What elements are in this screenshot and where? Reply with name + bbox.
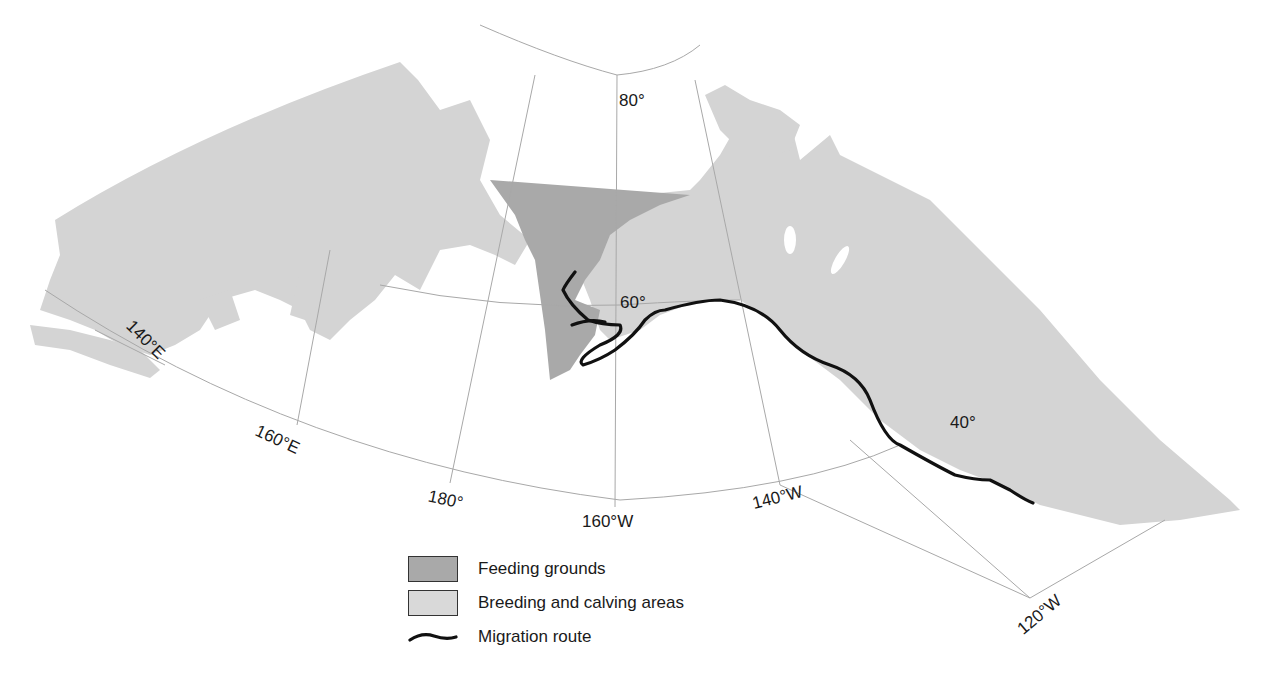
- land-north-america: [560, 110, 1240, 525]
- lake: [784, 226, 796, 254]
- legend-item-route: Migration route: [408, 624, 684, 650]
- longitude-label-160w: 160°W: [582, 512, 633, 532]
- map-legend: Feeding grounds Breeding and calving are…: [408, 556, 684, 658]
- boundary-edge: [780, 485, 1030, 598]
- migration-route-line-icon: [408, 624, 458, 650]
- latitude-label-80: 80°: [619, 91, 645, 111]
- legend-label: Feeding grounds: [478, 559, 606, 579]
- latitude-label-60: 60°: [620, 293, 646, 313]
- breeding-areas-swatch: [408, 590, 458, 616]
- legend-item-feeding: Feeding grounds: [408, 556, 684, 582]
- feeding-grounds-swatch: [408, 556, 458, 582]
- legend-label: Migration route: [478, 627, 591, 647]
- latitude-label-40: 40°: [950, 413, 976, 433]
- legend-item-breeding: Breeding and calving areas: [408, 590, 684, 616]
- latitude-line-80: [480, 25, 700, 75]
- boundary-edge: [1030, 520, 1165, 598]
- legend-label: Breeding and calving areas: [478, 593, 684, 613]
- land-asia: [40, 62, 530, 355]
- land-arctic-islands: [705, 85, 800, 160]
